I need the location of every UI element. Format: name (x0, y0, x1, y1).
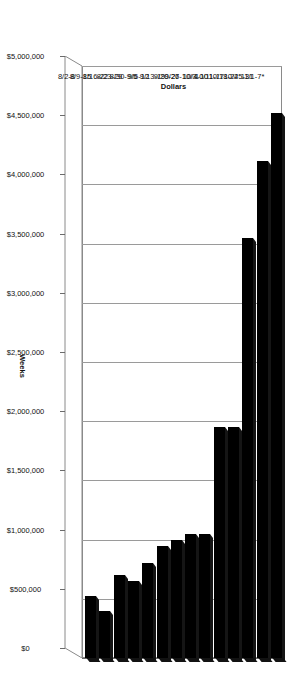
plot-area: 8/2-88/9-158/16-228/23-298/30-9/59/6-129… (60, 56, 282, 676)
category-axis-title: Weeks (18, 56, 27, 676)
value-label: $0 (0, 644, 56, 653)
value-label: $3,000,000 (0, 288, 56, 297)
value-label: $2,500,000 (0, 348, 56, 357)
value-label: $3,500,000 (0, 229, 56, 238)
bar-top-face (282, 113, 285, 661)
value-label: $5,000,000 (0, 52, 56, 61)
value-axis-labels: $0$500,000$1,000,000$1,500,000$2,000,000… (60, 56, 282, 676)
value-label: $4,000,000 (0, 170, 56, 179)
value-label: $1,000,000 (0, 525, 56, 534)
value-label: $4,500,000 (0, 111, 56, 120)
value-label: $500,000 (0, 584, 56, 593)
value-axis-title: Dollars (161, 82, 186, 91)
bar-chart-figure: 8/2-88/9-158/16-228/23-298/30-9/59/6-129… (0, 0, 288, 700)
value-label: $1,500,000 (0, 466, 56, 475)
value-label: $2,000,000 (0, 407, 56, 416)
